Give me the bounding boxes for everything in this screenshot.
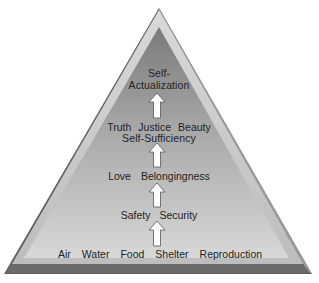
label-reproduction: Reproduction [200, 248, 262, 260]
label-air: Air [58, 248, 71, 260]
self-actualization-line1: Self- [109, 67, 209, 79]
label-safety: Safety [121, 209, 151, 221]
label-self-sufficiency: Self-Sufficiency [79, 132, 239, 144]
label-security: Security [159, 209, 197, 221]
level-love: Love Belongingness [79, 170, 239, 182]
self-actualization-line2: Actualization [109, 79, 209, 91]
pyramid-base-band [5, 264, 310, 273]
label-water: Water [82, 248, 110, 260]
label-food: Food [120, 248, 144, 260]
label-shelter: Shelter [155, 248, 188, 260]
label-belongingness: Belongingness [141, 170, 210, 182]
level-physiological: Air Water Food Shelter Reproduction [29, 248, 291, 260]
level-safety: Safety Security [79, 209, 239, 221]
level-self-actualization: Self- Actualization [109, 67, 209, 91]
label-love: Love [108, 170, 131, 182]
